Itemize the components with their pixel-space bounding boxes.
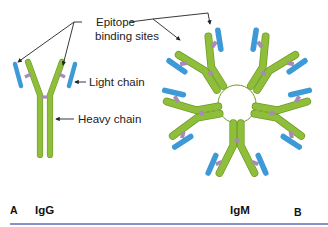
epitope-label-line1: Epitope xyxy=(96,16,135,28)
panel-a-letter: A xyxy=(10,204,18,216)
panel-b-letter: B xyxy=(294,206,302,218)
light-chain-label: Light chain xyxy=(89,76,145,88)
panel-a-title: IgG xyxy=(35,204,54,216)
light-chain-left xyxy=(15,64,21,86)
joining-ring xyxy=(218,85,256,123)
igm-antibody xyxy=(165,30,309,173)
epitope-label-line2: binding sites xyxy=(95,30,159,42)
igg-antibody xyxy=(15,62,75,155)
light-chain-right xyxy=(69,64,75,86)
bottom-divider xyxy=(10,223,328,225)
antibody-diagram: Epitope binding sites Light chain Heavy … xyxy=(0,0,328,227)
panel-b-title: IgM xyxy=(230,204,250,216)
heavy-chain-label: Heavy chain xyxy=(78,113,141,125)
